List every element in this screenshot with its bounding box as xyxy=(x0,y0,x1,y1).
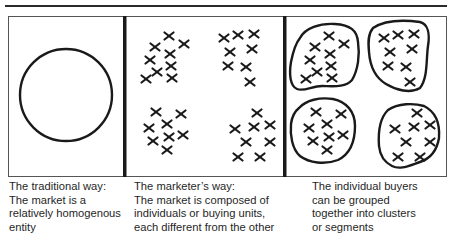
panel-divider-1 xyxy=(123,16,127,177)
caption-marketer: The marketer’s way: The market is compos… xyxy=(134,180,284,234)
panel-marketer xyxy=(142,31,275,161)
panel-traditional xyxy=(20,49,112,141)
panel-segments xyxy=(290,21,439,168)
segment-outline-2 xyxy=(368,21,428,91)
individual-buyers-marks xyxy=(142,31,275,161)
caption-traditional: The traditional way: The market is a rel… xyxy=(9,180,124,234)
caption-segments: The individual buyers can be grouped tog… xyxy=(312,180,452,234)
segment-outline-4 xyxy=(379,104,439,168)
panel-divider-2 xyxy=(283,16,287,177)
homogeneous-market-circle xyxy=(20,49,112,141)
